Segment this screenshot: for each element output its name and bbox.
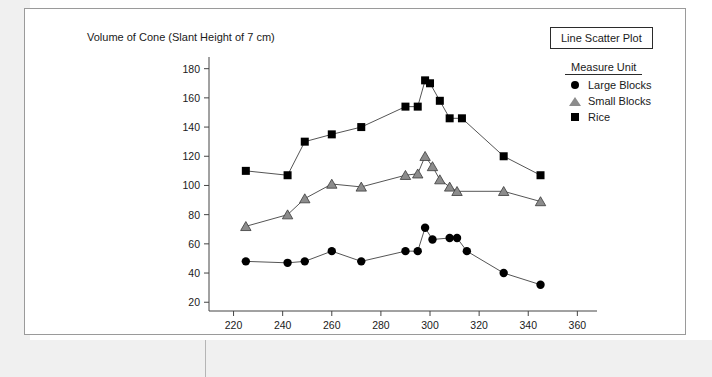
data-point-circle [428,235,436,243]
data-point-square [301,138,309,146]
x-axis-tick-label: 320 [470,319,488,331]
y-axis-tick-label: 20 [188,296,200,308]
y-axis-tick-label: 140 [182,121,200,133]
data-point-square [436,97,444,105]
x-axis-tick-label: 280 [372,319,390,331]
data-point-square [401,103,409,111]
data-point-circle [357,257,365,265]
chart-plot-area: 2040608010012014016018022024026028030032… [25,9,685,334]
x-axis-tick-label: 240 [274,319,292,331]
y-axis-tick-label: 120 [182,150,200,162]
data-point-circle [499,269,507,277]
chart-figure: Volume of Cone (Slant Height of 7 cm) Li… [24,8,686,335]
data-point-triangle [420,151,430,160]
data-point-square [500,152,508,160]
y-axis-tick-label: 100 [182,179,200,191]
data-point-circle [463,247,471,255]
data-point-square [414,103,422,111]
data-point-square [537,171,545,179]
data-point-square [426,79,434,87]
data-point-square [357,123,365,131]
x-axis-tick-label: 220 [225,319,243,331]
x-axis-tick-label: 260 [323,319,341,331]
data-point-circle [242,257,250,265]
y-axis-tick-label: 60 [188,238,200,250]
data-point-square [328,130,336,138]
y-axis-tick-label: 40 [188,267,200,279]
data-point-circle [421,224,429,232]
data-point-triangle [300,194,310,203]
data-point-square [242,167,250,175]
data-point-triangle [435,175,445,184]
x-axis-tick-label: 360 [569,319,587,331]
data-point-square [458,114,466,122]
data-point-circle [414,247,422,255]
y-axis-tick-label: 180 [182,63,200,75]
x-axis-tick-label: 340 [519,319,537,331]
data-point-circle [536,281,544,289]
y-axis-tick-label: 80 [188,209,200,221]
data-point-triangle [413,169,423,178]
data-point-circle [283,259,291,267]
data-point-triangle [241,222,251,231]
data-point-circle [401,247,409,255]
data-point-triangle [535,197,545,206]
series-line-large-blocks [246,228,541,285]
data-point-triangle [427,162,437,171]
axes-layer: 2040608010012014016018022024026028030032… [182,57,597,331]
data-point-square [446,114,454,122]
data-point-triangle [327,179,337,188]
bottom-margin-band [0,340,712,377]
data-point-circle [301,257,309,265]
x-axis-tick-label: 300 [421,319,439,331]
series-line-rice [246,80,541,175]
data-point-circle [453,234,461,242]
data-point-circle [445,234,453,242]
y-axis-tick-label: 160 [182,92,200,104]
series-layer [241,76,546,289]
column-divider [205,340,206,377]
data-point-triangle [444,182,454,191]
data-point-square [284,171,292,179]
data-point-circle [328,247,336,255]
